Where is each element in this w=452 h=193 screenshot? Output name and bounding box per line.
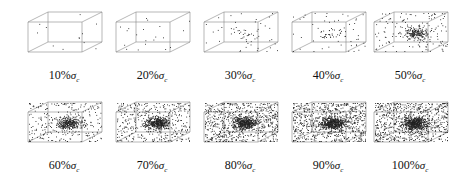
caption-percent: 70% — [137, 158, 159, 172]
panel-caption: 40%σc — [284, 68, 372, 84]
caption-percent: 60% — [49, 158, 71, 172]
caption-percent: 90% — [313, 158, 335, 172]
scatter-panel-80pct: 80%σc — [196, 98, 284, 188]
panel-caption: 50%σc — [366, 68, 452, 84]
caption-subscript: c — [252, 76, 255, 84]
3d-box-plot — [284, 8, 372, 68]
caption-subscript: c — [340, 166, 343, 174]
caption-percent: 80% — [225, 158, 247, 172]
3d-box-plot — [196, 8, 284, 68]
3d-box-plot — [108, 8, 196, 68]
caption-percent: 10% — [49, 68, 71, 82]
scatter-panel-40pct: 40%σc — [284, 8, 372, 98]
panel-caption: 70%σc — [108, 158, 196, 174]
panel-caption: 60%σc — [20, 158, 108, 174]
panel-caption: 10%σc — [20, 68, 108, 84]
caption-subscript: c — [252, 166, 255, 174]
3d-box-plot — [20, 98, 108, 158]
caption-percent: 20% — [137, 68, 159, 82]
scatter-panel-60pct: 60%σc — [20, 98, 108, 188]
caption-subscript: c — [164, 166, 167, 174]
scatter-panel-70pct: 70%σc — [108, 98, 196, 188]
caption-percent: 50% — [395, 68, 417, 82]
caption-subscript: c — [76, 76, 79, 84]
scatter-panel-90pct: 90%σc — [284, 98, 372, 188]
scatter-panel-20pct: 20%σc — [108, 8, 196, 98]
caption-subscript: c — [76, 166, 79, 174]
3d-box-plot — [108, 98, 196, 158]
caption-percent: 100% — [392, 158, 420, 172]
caption-percent: 30% — [225, 68, 247, 82]
scatter-panel-100pct: 100%σc — [366, 98, 452, 188]
caption-subscript: c — [425, 166, 428, 174]
panel-caption: 90%σc — [284, 158, 372, 174]
panel-caption: 100%σc — [366, 158, 452, 174]
caption-subscript: c — [340, 76, 343, 84]
3d-box-plot — [196, 98, 284, 158]
caption-subscript: c — [422, 76, 425, 84]
scatter-panel-30pct: 30%σc — [196, 8, 284, 98]
3d-box-plot — [366, 98, 452, 158]
caption-subscript: c — [164, 76, 167, 84]
3d-box-plot — [366, 8, 452, 68]
panel-caption: 30%σc — [196, 68, 284, 84]
3d-box-plot — [284, 98, 372, 158]
scatter-panel-50pct: 50%σc — [366, 8, 452, 98]
caption-percent: 40% — [313, 68, 335, 82]
3d-box-plot — [20, 8, 108, 68]
panel-caption: 80%σc — [196, 158, 284, 174]
scatter-panel-10pct: 10%σc — [20, 8, 108, 98]
panel-caption: 20%σc — [108, 68, 196, 84]
